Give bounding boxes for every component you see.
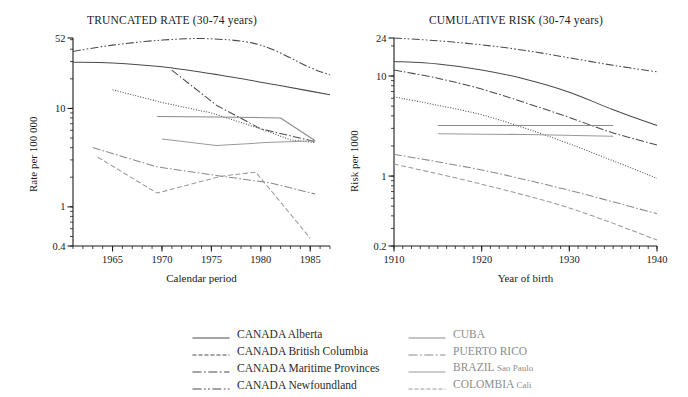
x-tick-label: 1965 — [102, 254, 123, 265]
y-tick-label: 0.2 — [373, 241, 386, 252]
chart-panel-truncated-rate: TRUNCATED RATE (30-74 years) 0.411052196… — [0, 0, 344, 300]
series-line — [394, 154, 657, 213]
legend-item: PUERTO RICO — [408, 342, 533, 359]
x-tick-label: 1980 — [250, 254, 271, 265]
y-tick-label: 10 — [55, 103, 66, 114]
x-axis-label: Calendar period — [73, 272, 330, 284]
legend-item-label: PUERTO RICO — [453, 345, 527, 357]
legend-line-swatch — [192, 367, 230, 377]
legend-column-left: CANADA AlbertaCANADA British ColumbiaCAN… — [192, 325, 379, 393]
legend-line-swatch — [408, 367, 446, 377]
legend-line-swatch — [408, 384, 446, 394]
legend-line-swatch — [192, 350, 230, 360]
plot-area-truncated-rate: 0.41105219651970197519801985 — [0, 0, 344, 300]
legend-item-label: CANADA British Columbia — [237, 345, 368, 357]
series-line — [172, 70, 315, 141]
x-tick-label: 1985 — [300, 254, 321, 265]
series-line — [162, 139, 315, 146]
legend-item: CANADA Newfoundland — [192, 376, 379, 393]
plot-area-cumulative-risk: 0.2110241910192019301940 — [344, 0, 688, 300]
series-line — [157, 116, 315, 140]
series-line — [394, 70, 657, 145]
legend-item-label: CANADA Alberta — [237, 328, 322, 340]
legend-item-label: CANADA Newfoundland — [237, 379, 357, 391]
legend-swatch — [408, 346, 446, 356]
legend-swatch — [408, 329, 446, 339]
series-line — [394, 164, 657, 240]
y-tick-label: 1 — [60, 201, 65, 212]
x-tick-label: 1920 — [471, 254, 492, 265]
y-axis-label: Rate per 100 000 — [27, 117, 39, 192]
series-line — [438, 134, 613, 137]
y-tick-label: 1 — [381, 171, 386, 182]
legend-item: COLOMBIA Cali — [408, 376, 533, 393]
legend-column-right: CUBAPUERTO RICOBRAZIL Sao PauloCOLOMBIA … — [408, 325, 533, 393]
legend-swatch — [408, 363, 446, 373]
x-tick-label: 1910 — [384, 254, 405, 265]
series-line — [394, 97, 657, 178]
series-line — [73, 39, 330, 75]
series-line — [98, 157, 311, 238]
series-line — [93, 148, 315, 194]
legend-item: CANADA British Columbia — [192, 342, 379, 359]
x-tick-label: 1975 — [201, 254, 222, 265]
y-tick-label: 0.4 — [52, 241, 66, 252]
legend-item-label: COLOMBIA Cali — [453, 378, 532, 391]
y-tick-label: 52 — [55, 33, 66, 44]
legend-item-label: CANADA Maritime Provinces — [237, 362, 379, 374]
chart-panel-cumulative-risk: CUMULATIVE RISK (30-74 years) 0.21102419… — [344, 0, 688, 300]
legend-item: CANADA Alberta — [192, 325, 379, 342]
chart-legend: CANADA AlbertaCANADA British ColumbiaCAN… — [0, 325, 688, 397]
legend-swatch — [408, 380, 446, 390]
series-line — [73, 62, 330, 94]
x-tick-label: 1970 — [151, 254, 172, 265]
legend-item: CANADA Maritime Provinces — [192, 359, 379, 376]
legend-item-label: BRAZIL Sao Paulo — [453, 361, 533, 374]
legend-line-swatch — [408, 350, 446, 360]
y-tick-label: 10 — [376, 71, 387, 82]
y-tick-label: 24 — [376, 33, 387, 44]
legend-swatch — [192, 380, 230, 390]
legend-swatch — [192, 363, 230, 373]
y-axis-label: Risk per 1000 — [348, 130, 360, 192]
series-line — [394, 61, 657, 125]
legend-item-label: CUBA — [453, 328, 485, 340]
x-tick-label: 1930 — [559, 254, 580, 265]
legend-line-swatch — [408, 333, 446, 343]
legend-line-swatch — [192, 384, 230, 394]
legend-line-swatch — [192, 333, 230, 343]
x-axis-label: Year of birth — [394, 272, 657, 284]
x-tick-label: 1940 — [647, 254, 668, 265]
legend-swatch — [192, 329, 230, 339]
legend-item: BRAZIL Sao Paulo — [408, 359, 533, 376]
legend-swatch — [192, 346, 230, 356]
series-line — [394, 38, 657, 72]
legend-item: CUBA — [408, 325, 533, 342]
